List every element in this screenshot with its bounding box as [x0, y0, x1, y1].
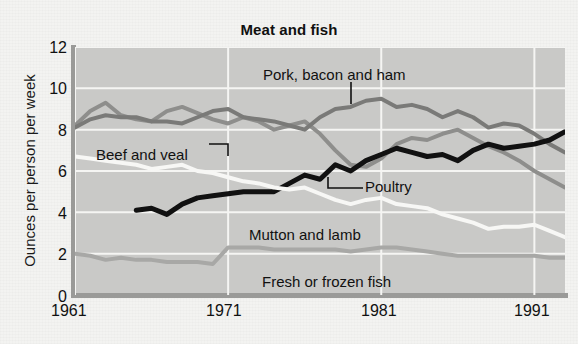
y-tick-label-6: 6: [21, 164, 67, 180]
y-tick-label-10: 10: [21, 81, 67, 97]
series-line-fresh-or-frozen-fish: [75, 247, 565, 264]
chart-title: Meat and fish: [0, 21, 578, 38]
x-tick-label-1961: 1961: [51, 303, 87, 319]
series-lines: [75, 47, 565, 295]
x-tick-label-1991: 1991: [514, 303, 550, 319]
series-label-fresh-or-frozen-fish: Fresh or frozen fish: [262, 273, 391, 290]
x-tick-label-1981: 1981: [361, 303, 397, 319]
series-label-poultry: Poultry: [365, 178, 412, 195]
chart-figure: Meat and fish Ounces per person per week…: [0, 0, 578, 344]
x-tick-label-1971: 1971: [206, 303, 242, 319]
series-label-pork-bacon-and-ham: Pork, bacon and ham: [263, 66, 406, 83]
y-tick-label-4: 4: [21, 206, 67, 222]
series-label-beef-and-veal: Beef and veal: [96, 146, 188, 163]
y-tick-label-2: 2: [21, 247, 67, 263]
gridlines: [75, 47, 565, 295]
y-tick-label-8: 8: [21, 123, 67, 139]
y-tick-label-12: 12: [21, 40, 67, 56]
series-label-mutton-and-lamb: Mutton and lamb: [249, 226, 361, 243]
